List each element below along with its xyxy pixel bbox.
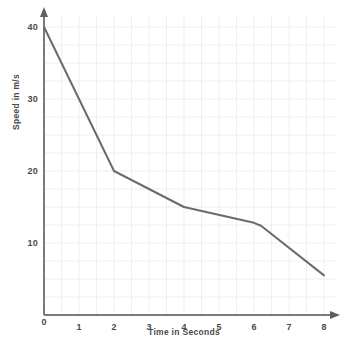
x-axis-title: Time in Seconds [148,327,220,337]
speed-time-line-chart: 012345678 10203040 Time in Seconds Speed… [0,0,347,341]
axes [40,7,340,319]
y-tick-label: 30 [18,94,38,104]
x-tick-label: 7 [286,322,291,332]
y-tick-label: 40 [18,22,38,32]
y-tick-label: 10 [18,238,38,248]
grid-lines-vertical [44,16,324,315]
y-axis-arrow-icon [40,7,48,17]
y-axis-title: Speed in m/s [11,74,21,130]
y-tick-label: 20 [18,166,38,176]
x-tick-label: 6 [251,322,256,332]
x-tick-label: 1 [76,322,81,332]
grid-lines-horizontal [44,27,336,315]
chart-canvas [0,0,347,341]
x-tick-label: 8 [321,322,326,332]
x-tick-label: 2 [111,322,116,332]
x-axis-arrow-icon [330,311,340,319]
x-tick-label: 0 [41,317,46,327]
